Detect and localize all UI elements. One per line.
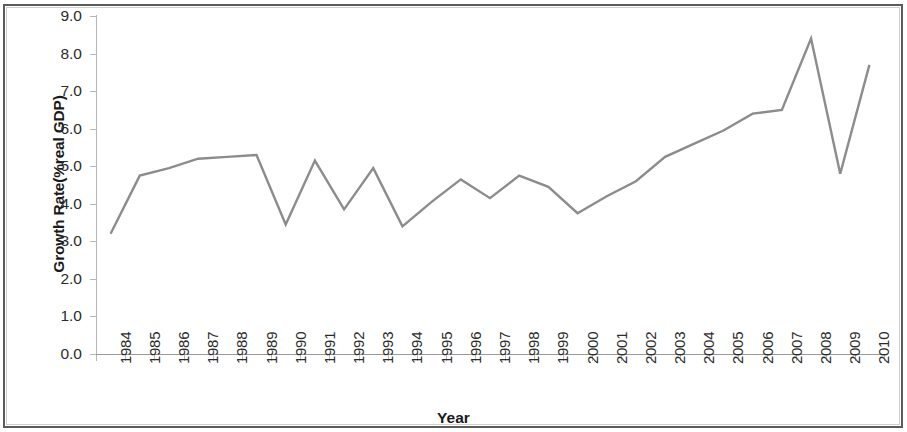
growth-rate-line bbox=[111, 39, 870, 234]
data-series-layer bbox=[0, 0, 907, 432]
chart-figure: Growth Rate(%real GDP) 9.08.07.06.05.04.… bbox=[0, 0, 907, 432]
x-axis-title: Year bbox=[0, 409, 907, 427]
